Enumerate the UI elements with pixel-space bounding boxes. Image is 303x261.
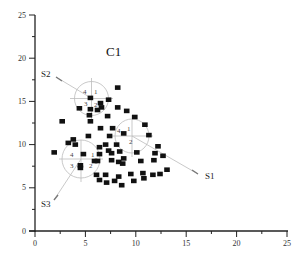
data-point <box>121 156 127 161</box>
s1-quadrant-4: 4 <box>117 127 121 135</box>
data-point <box>71 137 77 142</box>
data-point <box>110 126 116 131</box>
x-tick-label: 0 <box>33 239 37 248</box>
s3-quadrant-4: 4 <box>70 151 74 159</box>
data-point <box>73 142 79 147</box>
data-point <box>138 159 144 164</box>
data-point <box>106 97 112 102</box>
data-point <box>92 159 98 164</box>
data-point <box>115 85 121 90</box>
data-point <box>112 179 118 184</box>
data-point <box>109 158 115 163</box>
data-point <box>97 145 103 150</box>
data-point <box>155 144 161 149</box>
data-point <box>88 96 94 101</box>
data-point <box>121 131 127 136</box>
data-point <box>98 126 104 131</box>
data-point <box>99 105 105 110</box>
y-tick-label: 0 <box>22 227 26 236</box>
label-s1: S1 <box>205 171 215 181</box>
data-point <box>105 114 111 119</box>
y-axis: 25 20 15 10 5 0 <box>18 11 35 236</box>
data-point <box>106 148 112 153</box>
scatter-chart: 25 20 15 10 5 0 0 5 10 15 20 25 C1 1 2 3… <box>0 0 303 261</box>
data-point <box>117 149 123 154</box>
data-point <box>120 161 126 166</box>
x-tick-label: 15 <box>182 239 190 248</box>
data-point <box>86 134 92 139</box>
data-point <box>81 152 87 157</box>
s2-quadrant-1: 1 <box>94 88 98 96</box>
data-point <box>116 174 122 179</box>
x-tick-label: 10 <box>132 239 140 248</box>
x-axis: 0 5 10 15 20 25 <box>29 231 291 248</box>
x-tick-label: 20 <box>233 239 241 248</box>
y-tick-label: 5 <box>22 183 26 192</box>
data-point <box>150 173 156 178</box>
data-point <box>59 119 65 124</box>
s3-quadrant-3: 3 <box>70 162 74 170</box>
data-point <box>141 176 147 181</box>
s3-quadrant-1: 1 <box>91 151 95 159</box>
data-point <box>94 173 100 178</box>
data-point <box>131 179 137 184</box>
data-point <box>151 158 157 163</box>
data-point <box>107 134 113 139</box>
data-point <box>119 183 125 188</box>
data-point <box>97 152 103 157</box>
y-tick-label: 25 <box>18 11 26 20</box>
data-point <box>104 180 110 185</box>
data-point <box>78 166 84 171</box>
data-point <box>114 142 120 147</box>
data-point <box>103 173 109 178</box>
data-point <box>124 109 130 114</box>
data-point <box>140 171 146 176</box>
data-point <box>88 119 94 124</box>
y-tick-label: 20 <box>18 54 26 63</box>
data-point <box>98 101 104 106</box>
data-point <box>152 151 158 156</box>
data-point <box>115 105 121 110</box>
data-point <box>97 178 103 183</box>
s1-quadrant-2: 2 <box>129 138 133 146</box>
x-tick-label: 25 <box>283 239 291 248</box>
data-point <box>142 122 148 127</box>
data-point <box>164 167 170 172</box>
data-point <box>132 115 138 120</box>
data-point <box>157 172 163 177</box>
y-tick-label: 15 <box>18 97 26 106</box>
s2-quadrant-3: 3 <box>84 100 88 108</box>
y-tick-label: 10 <box>18 140 26 149</box>
data-point <box>103 142 109 147</box>
data-point <box>87 113 93 118</box>
data-point <box>146 133 152 138</box>
data-point <box>51 150 57 155</box>
s1-quadrant-1: 1 <box>127 125 131 133</box>
data-point <box>128 172 134 177</box>
chart-title: C1 <box>106 44 121 59</box>
data-point <box>160 154 166 159</box>
data-point <box>77 106 83 111</box>
x-tick-label: 5 <box>83 239 87 248</box>
data-point <box>88 107 94 112</box>
label-s2: S2 <box>41 69 51 79</box>
label-s3: S3 <box>41 199 51 209</box>
data-point <box>66 141 72 146</box>
data-point <box>134 150 140 155</box>
